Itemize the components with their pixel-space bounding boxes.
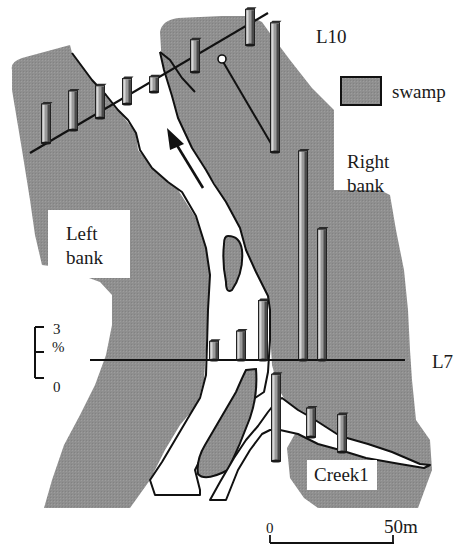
bar-l10-1 <box>41 102 53 145</box>
bar-l10-8 <box>270 21 282 154</box>
scale-bottom-label: 0 <box>53 379 61 395</box>
distance-scale-end-label: 50m <box>384 516 418 537</box>
distance-scale-bar <box>270 535 394 543</box>
scale-unit-label: % <box>52 339 65 355</box>
right-bank-label-line2: bank <box>347 175 384 196</box>
bar-creek1-3 <box>337 413 349 454</box>
bar-l10-6 <box>190 38 202 74</box>
swamp-map-figure: swamp L10 L7 Left bank Right bank Creek1… <box>0 0 468 555</box>
bar-l7-1 <box>209 339 221 361</box>
transect-l7-label: L7 <box>432 351 453 372</box>
transect-l10-label: L10 <box>316 26 347 47</box>
left-bank-label-line1: Left <box>66 223 98 244</box>
right-bank-label-line1: Right <box>347 151 390 172</box>
bar-l10-2 <box>68 89 80 132</box>
bar-l7-4 <box>298 149 310 362</box>
bar-creek1-1 <box>271 372 283 462</box>
bar-l7-3 <box>258 299 270 362</box>
bar-l10-4 <box>122 77 134 106</box>
bar-l7-2 <box>236 329 248 361</box>
bar-l10-3 <box>95 84 107 120</box>
left-bank-label-line2: bank <box>66 247 103 268</box>
distance-scale-start-label: 0 <box>266 520 274 536</box>
bar-l7-5 <box>317 227 329 361</box>
bar-l10-7 <box>245 7 257 46</box>
scale-top-label: 3 <box>53 321 61 337</box>
legend-swamp-swatch <box>341 77 381 105</box>
legend-swamp-label: swamp <box>392 81 446 102</box>
bar-creek1-2 <box>306 406 318 438</box>
creek1-label: Creek1 <box>314 464 369 485</box>
transect-l10-station-marker <box>218 55 226 63</box>
bar-height-scale <box>35 327 44 378</box>
bar-l10-5 <box>149 75 161 94</box>
